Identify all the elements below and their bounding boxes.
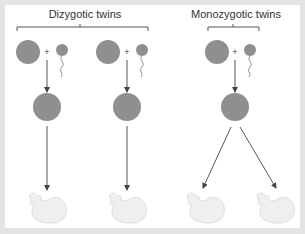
- plus-sign: +: [124, 47, 129, 57]
- embryo-icon: [29, 193, 66, 223]
- embryos: [29, 193, 294, 223]
- arrow-icon: [203, 127, 231, 188]
- fertilization-1: +: [16, 40, 68, 77]
- egg-icon: [96, 40, 120, 64]
- arrows-to-embryos: [47, 126, 276, 190]
- twins-diagram: + + +: [0, 0, 305, 234]
- embryo-icon: [257, 193, 294, 223]
- arrows-to-zygotes: [47, 60, 235, 92]
- sperm-icon: [56, 44, 68, 77]
- embryo-icon: [109, 193, 146, 223]
- dizygotic-twins-label: Dizygotic twins: [49, 8, 122, 20]
- embryo-icon: [187, 193, 224, 223]
- monozygotic-twins-label: Monozygotic twins: [191, 8, 281, 20]
- fertilization-3: +: [205, 40, 256, 77]
- bracket-monozygotic: [208, 24, 259, 31]
- fertilization-2: +: [96, 40, 148, 77]
- sperm-icon: [136, 44, 148, 77]
- zygote-icon: [221, 93, 249, 121]
- plus-sign: +: [44, 47, 49, 57]
- zygote-icon: [33, 93, 61, 121]
- plus-sign: +: [232, 47, 237, 57]
- zygote-icon: [113, 93, 141, 121]
- egg-icon: [16, 40, 40, 64]
- egg-icon: [205, 40, 229, 64]
- bracket-dizygotic: [17, 24, 148, 31]
- arrow-icon: [240, 127, 276, 188]
- sperm-icon: [244, 44, 256, 77]
